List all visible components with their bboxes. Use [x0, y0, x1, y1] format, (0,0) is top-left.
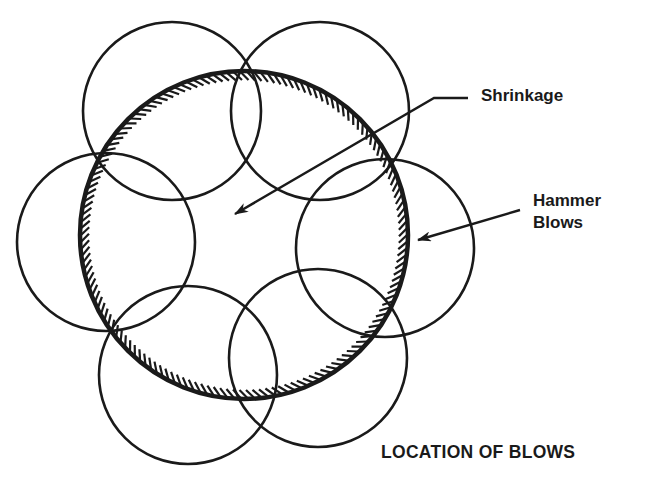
hammer-blows-arrow: [418, 210, 520, 240]
shrinkage-label: Shrinkage: [481, 86, 563, 106]
location-of-blows-diagram: [0, 0, 657, 489]
shrinkage-arrow: [235, 98, 468, 214]
shrinkage-hatching: [81, 72, 407, 398]
blow-circle-top-right: [231, 22, 409, 200]
blow-circle-bottom-left: [99, 286, 277, 464]
blow-circle-bottom-right: [229, 269, 407, 447]
blow-circle-left: [17, 153, 195, 331]
blow-circle-top-left: [83, 22, 261, 200]
hammer-label-line2: Blows: [533, 212, 601, 234]
blow-circle-right: [296, 159, 474, 337]
diagram-caption: LOCATION OF BLOWS: [381, 442, 575, 463]
hammer-label-line1: Hammer: [533, 190, 601, 212]
main-casting-circle: [80, 71, 408, 399]
hammer-blows-label: Hammer Blows: [533, 190, 601, 234]
